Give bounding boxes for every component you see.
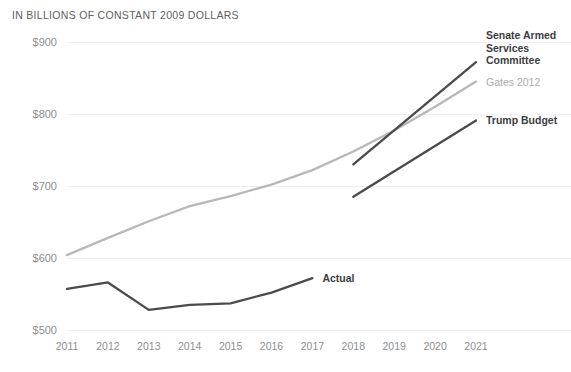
x-axis-tick-label: 2011 [56,340,79,352]
series-label-gates-2012: Gates 2012 [486,76,540,88]
x-axis-tick-label: 2019 [383,340,406,352]
series-label-senate-armed-services-committee: Senate Armed Services Committee [486,29,556,66]
x-axis-tick-label: 2015 [219,340,242,352]
series-label-actual: Actual [322,272,354,284]
x-axis-tick-label: 2012 [96,340,119,352]
chart-container: IN BILLIONS OF CONSTANT 2009 DOLLARS $50… [0,0,571,372]
x-axis-tick-label: 2016 [260,340,283,352]
x-axis-tick-label: 2021 [464,340,487,352]
x-axis-tick-label: 2018 [342,340,365,352]
x-axis-tick-label: 2014 [178,340,201,352]
x-axis-tick-label: 2017 [301,340,324,352]
x-axis-tick-label: 2013 [137,340,160,352]
series-label-trump-budget: Trump Budget [486,114,557,126]
x-axis-tick-label: 2020 [423,340,446,352]
